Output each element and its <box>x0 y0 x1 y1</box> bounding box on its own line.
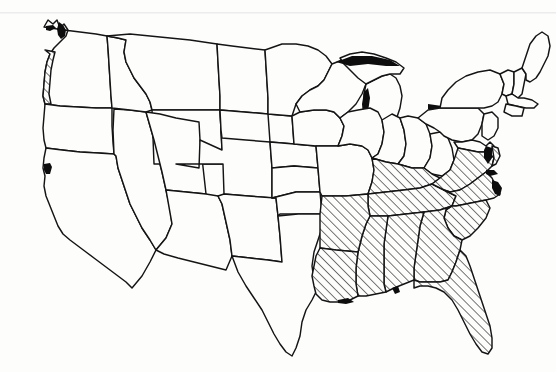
state-maine <box>522 32 550 82</box>
state-iowa <box>292 110 344 146</box>
state-missouri <box>316 144 374 196</box>
state-louisiana <box>312 248 358 302</box>
state-new-york <box>440 70 504 108</box>
state-oregon <box>43 104 114 154</box>
us-outline-map <box>0 0 556 372</box>
state-washington <box>43 20 112 108</box>
state-new-jersey <box>482 112 498 140</box>
state-new-hampshire <box>512 68 526 98</box>
map-svg <box>0 0 556 372</box>
state-oklahoma <box>272 192 322 216</box>
state-north-dakota <box>217 44 268 114</box>
delmarva-peninsula-tip <box>492 146 500 166</box>
